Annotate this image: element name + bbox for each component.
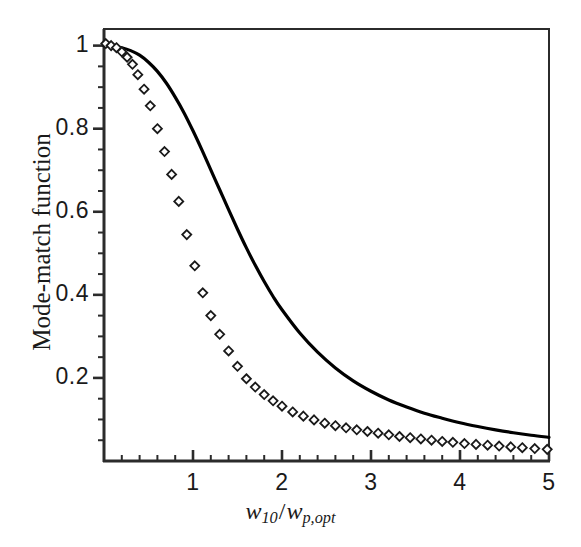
x-tick-label: 5: [527, 469, 571, 496]
series-theory-curve: [104, 46, 549, 438]
y-axis-ticks: [93, 46, 104, 441]
x-tick-label: 3: [349, 469, 393, 496]
x-tick-label: 2: [260, 469, 304, 496]
x-tick-label: 4: [438, 469, 482, 496]
x-axis-title-sub1: 10: [261, 508, 277, 527]
x-axis-title: w10/wp,opt: [0, 498, 581, 528]
x-tick-label: 1: [171, 469, 215, 496]
x-axis-title-var2: w: [286, 498, 302, 524]
y-tick-label: 1: [29, 31, 89, 58]
series-measured-points: [101, 39, 551, 454]
mode-match-function-chart: 0.20.40.60.81 12345 Mode-match function …: [0, 0, 581, 547]
plot-canvas: [0, 0, 581, 547]
x-axis-title-sub2: p,opt: [302, 508, 335, 527]
x-axis-title-var1: w: [245, 498, 261, 524]
y-axis-title: Mode-match function: [28, 112, 56, 372]
plot-frame: [103, 29, 550, 462]
x-axis-ticks: [122, 450, 549, 461]
data-series-layer: [101, 39, 551, 454]
